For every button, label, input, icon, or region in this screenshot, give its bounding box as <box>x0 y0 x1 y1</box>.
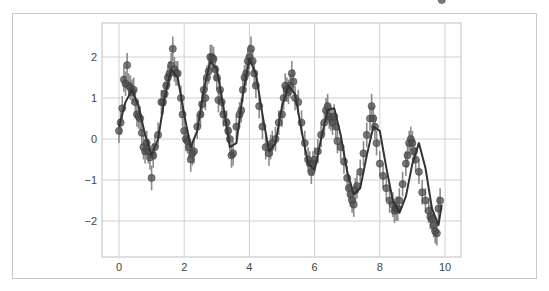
data-point <box>383 185 390 192</box>
data-point <box>370 115 377 122</box>
x-axis-ticks: 0246810 <box>116 261 451 273</box>
x-tick-label: 2 <box>181 261 187 273</box>
data-point <box>415 168 422 175</box>
data-point <box>115 127 122 134</box>
data-point <box>438 0 445 4</box>
data-point <box>124 62 131 69</box>
y-axis-ticks: −2−1012 <box>84 51 97 227</box>
data-point <box>396 197 403 204</box>
y-tick-label: −1 <box>84 174 97 186</box>
x-tick-label: 10 <box>439 261 451 273</box>
data-point <box>404 152 411 159</box>
data-point <box>379 172 386 179</box>
data-point <box>376 160 383 167</box>
y-tick-label: −2 <box>84 215 97 227</box>
data-point <box>350 201 357 208</box>
data-point <box>288 70 295 77</box>
data-point <box>437 197 444 204</box>
data-point <box>190 148 197 155</box>
y-tick-label: 2 <box>91 51 97 63</box>
data-point <box>247 45 254 52</box>
data-point <box>290 78 297 85</box>
data-point <box>373 140 380 147</box>
errorbar-chart: 0246810 −2−1012 <box>0 0 549 291</box>
data-point <box>399 181 406 188</box>
data-point <box>363 131 370 138</box>
x-tick-label: 0 <box>116 261 122 273</box>
y-tick-label: 0 <box>91 133 97 145</box>
data-point <box>230 150 237 157</box>
data-point <box>169 45 176 52</box>
data-point <box>422 197 429 204</box>
data-point <box>419 189 426 196</box>
data-point <box>402 160 409 167</box>
data-point <box>368 103 375 110</box>
data-point <box>148 174 155 181</box>
x-tick-label: 4 <box>246 261 252 273</box>
data-point <box>409 140 416 147</box>
data-point <box>433 230 440 237</box>
y-tick-label: 1 <box>91 92 97 104</box>
x-tick-label: 8 <box>377 261 383 273</box>
x-tick-label: 6 <box>312 261 318 273</box>
